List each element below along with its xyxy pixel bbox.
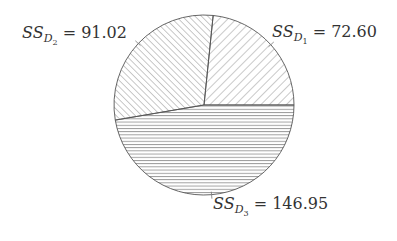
slice-label-d3: SSD3 = 146.95 [213, 196, 328, 218]
pie-slice-3 [115, 105, 294, 195]
pie-slice-2 [114, 15, 213, 120]
slice-label-d2: SSD2 = 91.02 [22, 25, 127, 47]
pie-slices [114, 15, 294, 195]
slice-label-d1: SSD1 = 72.60 [272, 24, 377, 46]
